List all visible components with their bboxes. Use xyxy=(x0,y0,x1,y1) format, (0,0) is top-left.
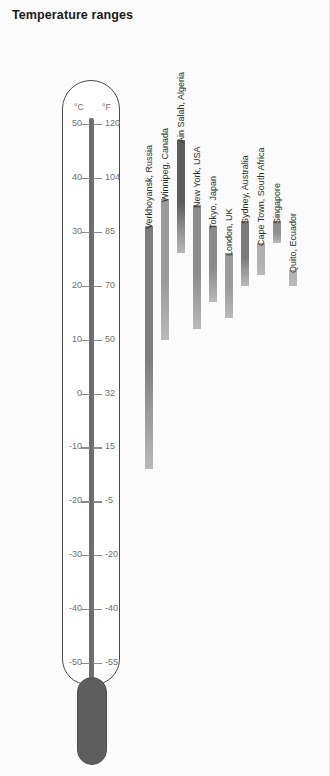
city-label: Singapore xyxy=(273,183,282,224)
scale-tick-celsius xyxy=(81,286,90,287)
scale-label-fahrenheit: 85 xyxy=(105,227,115,236)
scale-tick-celsius xyxy=(81,394,90,395)
scale-tick-fahrenheit xyxy=(93,232,102,233)
thermometer-tube xyxy=(89,118,94,678)
scale-tick-fahrenheit xyxy=(93,286,102,287)
scale-tick-celsius xyxy=(81,178,90,179)
temperature-range-bar xyxy=(193,205,201,329)
city-label: Verkhoyansk, Russia xyxy=(145,145,154,229)
city-label: Sydney, Australia xyxy=(241,155,250,224)
thermometer: °C °F 5012040104308520701050032-1015-20-… xyxy=(62,80,122,705)
city-bars-group: Verkhoyansk, RussiaWinnipeg, CanadaAin S… xyxy=(0,0,329,776)
scale-label-fahrenheit: 104 xyxy=(105,173,120,182)
temperature-range-bar xyxy=(209,226,217,301)
city-label: New York, USA xyxy=(193,146,202,208)
scale-tick-celsius xyxy=(81,555,90,556)
fahrenheit-unit-label: °F xyxy=(102,102,111,112)
temperature-range-bar xyxy=(289,270,297,286)
city-label: Tokyo, Japan xyxy=(209,176,218,229)
scale-tick-fahrenheit xyxy=(93,124,102,125)
city-label: Cape Town, South Africa xyxy=(257,147,266,245)
celsius-unit-label: °C xyxy=(74,102,84,112)
infographic-page: Temperature ranges °C °F 501204010430852… xyxy=(0,0,330,776)
page-title: Temperature ranges xyxy=(12,8,133,22)
scale-tick-celsius xyxy=(81,447,90,448)
scale-tick-fahrenheit xyxy=(93,501,102,502)
temperature-range-bar xyxy=(177,140,185,253)
temperature-range-bar xyxy=(257,243,265,275)
temperature-range-bar xyxy=(145,226,153,469)
scale-label-fahrenheit: 32 xyxy=(105,389,115,398)
scale-label-celsius: 50 xyxy=(72,119,82,128)
city-label: Winnipeg, Canada xyxy=(161,128,170,202)
scale-tick-celsius xyxy=(81,124,90,125)
scale-label-celsius: 20 xyxy=(72,281,82,290)
scale-label-fahrenheit: 15 xyxy=(105,442,115,451)
scale-label-celsius: 10 xyxy=(72,335,82,344)
temperature-range-bar xyxy=(273,221,281,243)
scale-label-fahrenheit: -20 xyxy=(105,550,118,559)
city-label: London, UK xyxy=(225,209,234,257)
scale-label-fahrenheit: 70 xyxy=(105,281,115,290)
scale-label-fahrenheit: 50 xyxy=(105,335,115,344)
temperature-range-bar xyxy=(241,221,249,286)
city-label: Ain Salah, Algeria xyxy=(177,72,186,143)
scale-label-celsius: -30 xyxy=(69,550,82,559)
scale-tick-fahrenheit xyxy=(93,663,102,664)
scale-tick-celsius xyxy=(81,663,90,664)
scale-tick-fahrenheit xyxy=(93,394,102,395)
scale-tick-celsius xyxy=(81,501,90,502)
scale-tick-fahrenheit xyxy=(93,609,102,610)
scale-label-celsius: -40 xyxy=(69,604,82,613)
scale-tick-fahrenheit xyxy=(93,340,102,341)
scale-label-fahrenheit: 120 xyxy=(105,119,120,128)
scale-tick-celsius xyxy=(81,340,90,341)
scale-tick-celsius xyxy=(81,609,90,610)
city-label: Quito, Ecuador xyxy=(289,212,298,272)
scale-tick-fahrenheit xyxy=(93,178,102,179)
scale-tick-fahrenheit xyxy=(93,555,102,556)
scale-label-celsius: 40 xyxy=(72,173,82,182)
scale-tick-fahrenheit xyxy=(93,447,102,448)
thermometer-bulb xyxy=(77,677,107,765)
temperature-range-bar xyxy=(225,253,233,318)
scale-label-fahrenheit: -55 xyxy=(105,658,118,667)
temperature-range-bar xyxy=(161,199,169,339)
scale-label-celsius: -10 xyxy=(69,442,82,451)
scale-tick-celsius xyxy=(81,232,90,233)
scale-label-celsius: 30 xyxy=(72,227,82,236)
scale-label-celsius: -50 xyxy=(69,658,82,667)
scale-label-celsius: -20 xyxy=(69,496,82,505)
scale-label-fahrenheit: -40 xyxy=(105,604,118,613)
scale-label-celsius: 0 xyxy=(77,389,82,398)
scale-label-fahrenheit: -5 xyxy=(105,496,113,505)
